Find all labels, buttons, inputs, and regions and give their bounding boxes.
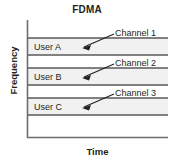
channel-annotation-label-2: Channel 2 (115, 58, 156, 68)
user-band-label-b: User B (34, 72, 62, 82)
user-band-label-a: User A (34, 42, 61, 52)
y-axis-label: Frequency (8, 29, 19, 113)
x-axis-label: Time (27, 146, 168, 157)
channel-annotation-label-3: Channel 3 (115, 88, 156, 98)
fdma-plot-area: User A User B User C Channel 1 Channel 2… (0, 0, 174, 163)
fdma-diagram: FDMA User A User B User C Channel 1 Chan… (0, 0, 174, 163)
user-band-label-c: User C (34, 102, 63, 112)
channel-annotation-label-1: Channel 1 (115, 28, 156, 38)
